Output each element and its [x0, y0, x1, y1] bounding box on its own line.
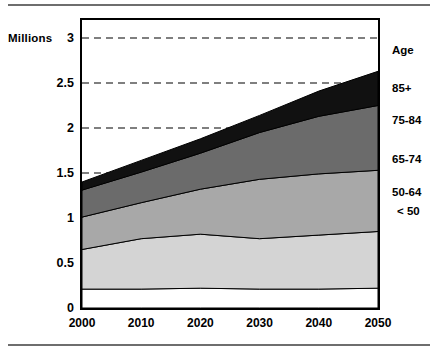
x-axis-tick-label: 2040 [291, 316, 347, 330]
y-axis-tick-label: 1.5 [28, 166, 74, 180]
legend-item-50-64: 50-64 [392, 186, 421, 198]
y-axis-tick-label: 2 [28, 121, 74, 135]
y-axis-tick-label: 3 [28, 31, 74, 45]
legend-header: Age [392, 44, 414, 56]
y-axis-tick-label: 2.5 [28, 76, 74, 90]
legend-item-65-74: 65-74 [392, 153, 421, 165]
legend-item-85: 85+ [392, 82, 412, 94]
y-axis-tick-label: 0.5 [28, 256, 74, 270]
area-band [82, 288, 378, 308]
x-axis-tick-label: 2020 [172, 316, 228, 330]
chart-figure: Millions 00.511.522.53 20002010202020302… [0, 0, 438, 354]
y-axis-tick-label: 1 [28, 211, 74, 225]
y-axis-tick-group: 00.511.522.53 [18, 0, 74, 354]
stacked-area-svg [82, 20, 378, 308]
plot-area [80, 18, 380, 310]
x-axis-tick-label: 2010 [113, 316, 169, 330]
y-axis-tick-label: 0 [28, 301, 74, 315]
x-axis-tick-label: 2000 [54, 316, 110, 330]
legend-item-50: < 50 [397, 205, 420, 217]
plot-inner [82, 20, 378, 308]
legend-item-75-84: 75-84 [392, 114, 421, 126]
x-axis-tick-label: 2030 [232, 316, 288, 330]
x-axis-tick-label: 2050 [350, 316, 406, 330]
